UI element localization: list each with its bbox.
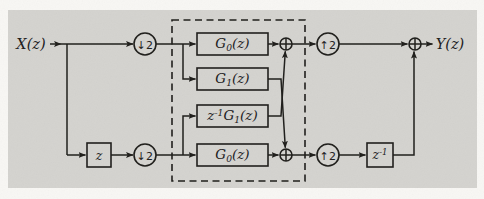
delay-z-label: z — [96, 150, 103, 163]
scanned-figure-page: X(z) Y(z) ↓2 ↓2 ↑2 ↑2 G0(z) G1(z) z-1G1(… — [0, 0, 484, 199]
filter-g0-bottom-label: G0(z) — [215, 148, 249, 162]
filter-g0-top-label: G0(z) — [215, 37, 249, 51]
filter-bank-diagram — [0, 0, 484, 199]
summing-node-bottom — [280, 149, 292, 161]
input-signal-label: X(z) — [16, 37, 45, 52]
upsampler-top-label: ↑2 — [319, 39, 336, 50]
filter-g1-label: G1(z) — [215, 72, 249, 86]
downsampler-top-label: ↓2 — [136, 39, 153, 50]
filter-zinv-g1-label: z-1G1(z) — [207, 109, 257, 123]
upsampler-bottom-label: ↑2 — [319, 150, 336, 161]
output-signal-label: Y(z) — [436, 37, 465, 52]
delay-zinv-label: z-1 — [373, 149, 388, 162]
summing-node-top — [280, 38, 292, 50]
downsampler-bottom-label: ↓2 — [136, 150, 153, 161]
summing-node-output — [409, 38, 421, 50]
